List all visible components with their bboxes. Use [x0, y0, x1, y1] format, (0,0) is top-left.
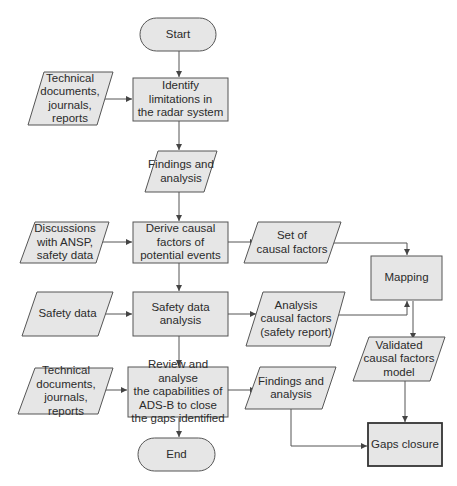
edge-analysiscausal-mapping — [335, 301, 407, 315]
discussions-label: Discussions with ANSP, safety data — [24, 222, 106, 263]
review-label: Review and analyse the capabilities of A… — [128, 367, 228, 417]
edge-findings2-gaps — [291, 409, 367, 446]
identify-label: Identify limitations in the radar system — [133, 78, 228, 121]
tech-docs-1-label: Technical documents, journals, reports — [30, 72, 110, 125]
findings-2-label: Findings and analysis — [249, 367, 333, 409]
safety-data-label: Safety data — [25, 292, 110, 336]
gaps-closure-label: Gaps closure — [368, 423, 442, 466]
mapping-label: Mapping — [371, 256, 442, 300]
start-label: Start — [140, 18, 216, 51]
validated-model-label: Validated causal factors model — [356, 337, 442, 381]
derive-label: Derive causal factors of potential event… — [133, 222, 228, 263]
analysis-causal-factors-label: Analysis causal factors (safety report) — [250, 292, 342, 346]
set-causal-factors-label: Set of causal factors — [246, 222, 338, 263]
edge-setcausal-mapping — [332, 243, 407, 255]
safety-analysis-label: Safety data analysis — [133, 292, 228, 336]
findings-1-label: Findings and analysis — [147, 151, 215, 192]
end-label: End — [138, 438, 215, 471]
tech-docs-2-label: Technical documents, journals, reports — [22, 368, 110, 414]
